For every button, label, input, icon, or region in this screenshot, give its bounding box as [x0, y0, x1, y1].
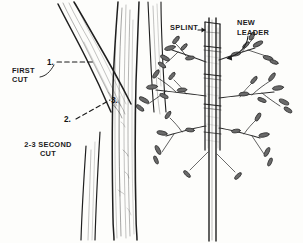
illustration-figure: FIRST CUT 2-3 SECOND CUT 1. 2. 3. SPLINT…	[0, 0, 303, 243]
callout-number-1: 1.	[47, 58, 54, 67]
callout-number-2: 2.	[64, 115, 71, 124]
label-new-leader: NEW LEADER	[237, 18, 269, 37]
label-second-cut: 2-3 SECOND CUT	[9, 140, 87, 159]
label-splint: SPLINT	[170, 24, 198, 32]
callout-number-3: 3.	[111, 96, 118, 105]
label-first-cut: FIRST CUT	[12, 66, 35, 85]
